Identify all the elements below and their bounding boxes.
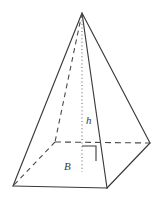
hidden-back-lateral-edge xyxy=(55,13,82,142)
height-label: h xyxy=(86,114,92,126)
right-base-edge xyxy=(107,143,150,188)
front-base-edge xyxy=(13,186,107,188)
front-lateral-edge xyxy=(82,13,107,188)
base-label: B xyxy=(64,160,71,172)
left-lateral-edge xyxy=(13,13,82,186)
pyramid-drawing: h B xyxy=(0,0,163,198)
right-angle-marker xyxy=(82,146,96,161)
hidden-back-left-base-edge xyxy=(13,142,55,186)
visible-edges-group xyxy=(13,13,150,188)
right-lateral-edge xyxy=(82,13,150,143)
labels-group: h B xyxy=(64,114,92,172)
right-angle-marker-group xyxy=(82,146,96,161)
pyramid-figure: h B xyxy=(0,0,163,198)
hidden-back-right-base-edge xyxy=(55,142,150,143)
